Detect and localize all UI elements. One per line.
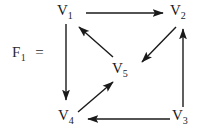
node-letter: V: [112, 60, 123, 76]
node-letter: V: [170, 2, 181, 18]
edge-v2-to-v5: [142, 27, 176, 62]
edge-v4-to-v5: [78, 82, 113, 112]
graph-node-v4: V4: [58, 108, 74, 126]
graph-node-v1: V1: [57, 3, 73, 21]
node-letter: V: [172, 107, 183, 123]
figure-canvas: F1=: [0, 0, 204, 133]
node-letter: V: [58, 107, 69, 123]
edge-v5-to-v1: [79, 27, 113, 57]
node-subscript: 2: [181, 10, 186, 21]
graph-node-v3: V3: [172, 108, 188, 126]
graph-node-v2: V2: [170, 3, 186, 21]
graph-node-v5: V5: [112, 61, 128, 79]
node-letter: V: [57, 2, 68, 18]
node-subscript: 4: [69, 115, 74, 126]
node-subscript: 5: [123, 68, 128, 79]
node-subscript: 3: [183, 115, 188, 126]
node-subscript: 1: [68, 10, 73, 21]
